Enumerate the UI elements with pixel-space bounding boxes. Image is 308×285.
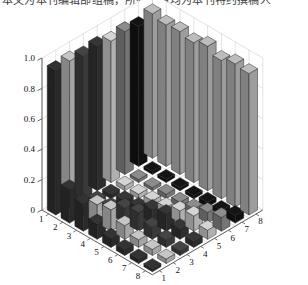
bar-face-left xyxy=(171,27,180,175)
left-axis-tick xyxy=(129,263,132,265)
figure-3d-bar-chart: 本文为本刊编辑部组稿，所有作者均为本刊特约撰稿人 1.00.80.60.40.2… xyxy=(0,0,308,285)
right-axis-tick-label: 6 xyxy=(231,233,236,243)
right-axis-tick-label: 3 xyxy=(189,257,194,267)
left-axis-tick-label: 1 xyxy=(39,214,44,224)
bar-face-left xyxy=(227,59,236,207)
left-axis-tick-label: 4 xyxy=(81,239,86,249)
left-axis-tick xyxy=(101,246,104,248)
left-axis-tick xyxy=(60,222,63,224)
z-axis-tick-label: 0.2 xyxy=(24,175,35,185)
z-axis-tick-label: 0.8 xyxy=(24,84,36,94)
bar-face-left xyxy=(158,20,167,166)
z-axis-tick-label: 0 xyxy=(31,205,36,215)
left-axis-tick xyxy=(46,214,49,216)
bar-face-left xyxy=(144,9,153,158)
z-axis-tick xyxy=(38,88,43,90)
bar-face-left xyxy=(47,66,56,215)
bar-face-left xyxy=(130,22,139,167)
bar-face-left xyxy=(61,185,70,223)
bar-face-left xyxy=(75,51,84,199)
right-axis-tick-label: 2 xyxy=(175,265,180,275)
left-axis-tick-label: 2 xyxy=(53,222,58,232)
left-axis-tick xyxy=(142,271,145,273)
plot-area: 1.00.80.60.40.201234567812345678 xyxy=(0,0,308,285)
bar-face-left xyxy=(116,27,125,175)
z-axis-tick-label: 0.6 xyxy=(24,114,36,124)
left-axis-tick-label: 3 xyxy=(67,231,72,241)
left-axis-tick xyxy=(73,230,76,232)
left-axis-tick-label: 5 xyxy=(94,247,99,257)
z-axis-tick-label: 0.4 xyxy=(24,144,36,154)
z-axis-tick xyxy=(38,58,43,60)
right-axis-tick-label: 8 xyxy=(258,216,263,226)
bar-face-left xyxy=(185,38,194,183)
z-axis-tick-label: 1.0 xyxy=(24,53,36,63)
left-axis-tick xyxy=(87,238,90,240)
left-axis-tick xyxy=(115,255,118,257)
bar-face-left xyxy=(102,36,111,182)
left-axis-tick-label: 6 xyxy=(108,255,113,265)
bar-face-left xyxy=(75,199,84,231)
right-axis-tick-label: 1 xyxy=(162,273,167,283)
chart-svg: 1.00.80.60.40.201234567812345678 xyxy=(0,0,308,285)
bar-face-left xyxy=(240,69,249,215)
bar-face-left xyxy=(213,55,222,198)
left-axis-tick-label: 8 xyxy=(136,271,141,281)
right-axis-tick-label: 7 xyxy=(244,224,249,234)
right-axis-tick-label: 4 xyxy=(203,249,208,259)
z-axis-tick xyxy=(38,180,43,182)
bar-face-right xyxy=(249,69,258,215)
bar-face-left xyxy=(89,41,98,190)
left-axis-tick-label: 7 xyxy=(122,263,127,273)
z-axis-tick xyxy=(38,149,43,151)
z-axis-tick xyxy=(38,119,43,121)
right-axis-tick-label: 5 xyxy=(217,241,222,251)
z-axis-tick xyxy=(38,210,43,212)
bar-face-left xyxy=(199,41,208,190)
